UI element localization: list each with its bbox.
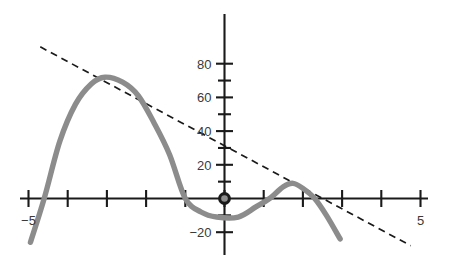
cubic-curve: [30, 77, 340, 242]
y-tick-label-60: 60: [197, 90, 211, 105]
origin-point-fill: [221, 195, 228, 202]
x-tick-label-5: 5: [417, 213, 424, 228]
chart-figure: −55 −2020406080: [0, 0, 450, 266]
y-tick-label-20: 20: [197, 158, 211, 173]
x-tick-label-neg5: −5: [21, 213, 36, 228]
y-tick-label-40: 40: [197, 124, 211, 139]
y-tick-label-80: 80: [197, 57, 211, 72]
y-tick-label-neg20: −20: [189, 225, 211, 240]
plot-canvas: −55 −2020406080: [0, 0, 450, 266]
